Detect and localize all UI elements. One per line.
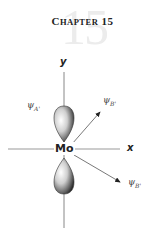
psi-subscript: A' bbox=[34, 105, 40, 112]
arrow-upper-right bbox=[72, 112, 100, 144]
center-atom-label: Mo bbox=[54, 142, 75, 155]
psi-symbol: ψ bbox=[27, 100, 34, 110]
psi-a-label: ψA' bbox=[27, 100, 40, 112]
psi-symbol: ψ bbox=[128, 177, 135, 187]
orbital-diagram bbox=[0, 0, 165, 235]
y-axis-label: y bbox=[60, 56, 67, 67]
x-axis-label: x bbox=[127, 142, 133, 153]
psi-symbol: ψ bbox=[103, 95, 110, 105]
upper-orbital-lobe bbox=[54, 106, 74, 142]
psi-subscript: B' bbox=[110, 100, 116, 107]
psi-subscript: B' bbox=[135, 182, 141, 189]
arrow-lower-right bbox=[74, 155, 120, 182]
psi-b-lower-label: ψB' bbox=[128, 177, 141, 189]
psi-b-upper-label: ψB' bbox=[103, 95, 116, 107]
lower-orbital-lobe bbox=[54, 158, 74, 194]
